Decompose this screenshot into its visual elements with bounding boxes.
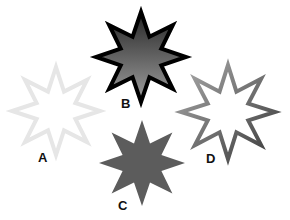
star-b-dark-gradient xyxy=(96,12,186,102)
label-d: D xyxy=(206,152,215,165)
label-b: B xyxy=(121,97,130,110)
star-a-light-outline xyxy=(12,67,100,155)
label-c: C xyxy=(118,199,127,212)
star-diagram xyxy=(0,0,290,220)
label-a: A xyxy=(38,151,47,164)
star-c-solid-gray xyxy=(99,120,185,206)
star-d-gradient-outline xyxy=(181,65,275,159)
